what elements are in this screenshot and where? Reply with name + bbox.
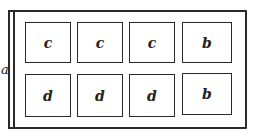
- cell-r1-c3: c: [129, 22, 175, 63]
- cell-r2-c1: d: [25, 74, 71, 117]
- cell-label: b: [202, 35, 212, 51]
- cell-label: d: [95, 88, 105, 104]
- cell-label: c: [44, 35, 53, 51]
- cell-r1-c2: c: [77, 22, 123, 63]
- cell-r1-c4: b: [182, 22, 232, 63]
- cell-label: d: [43, 88, 53, 104]
- cell-r1-c1: c: [25, 22, 71, 63]
- cell-label: c: [96, 35, 105, 51]
- cell-label: d: [147, 88, 157, 104]
- side-label-a: a: [1, 62, 9, 77]
- cell-label: c: [148, 35, 157, 51]
- cell-r2-c3: d: [129, 74, 175, 117]
- cell-label: b: [202, 86, 212, 102]
- cell-r2-c2: d: [77, 74, 123, 117]
- cell-r2-c4: b: [182, 73, 232, 115]
